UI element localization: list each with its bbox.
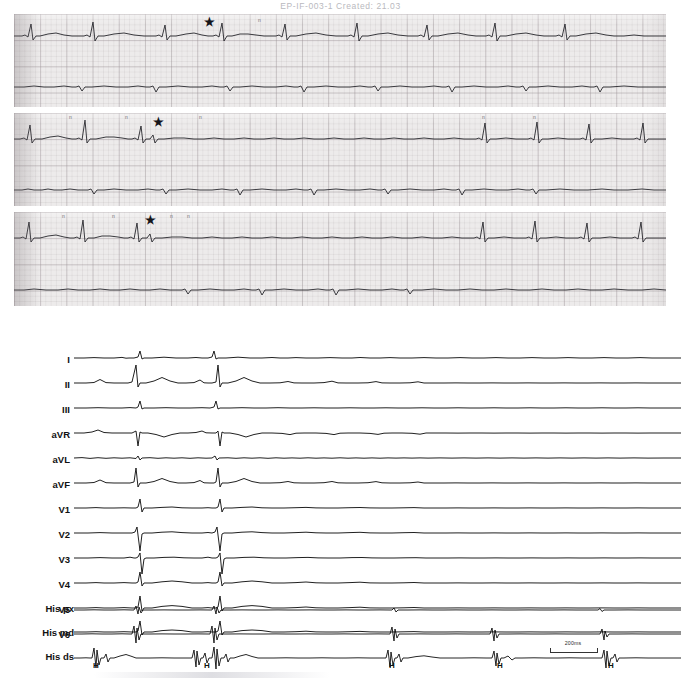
beat-tick-marker: n <box>170 214 173 219</box>
ecg-strip-3: ★ n n n n <box>14 212 666 306</box>
beat-tick-marker: n <box>112 214 115 219</box>
figure-header: EP-IF-003-1 Created: 21.03 <box>0 0 681 12</box>
beat-tick-marker: n <box>258 18 261 23</box>
his-deflection-marker: H <box>608 662 614 670</box>
trace-aVL <box>74 456 681 460</box>
his-deflection-marker: H <box>497 662 503 670</box>
ecg-strip-2: ★ n n n n n <box>14 113 666 206</box>
ecg-strip-2-traces <box>14 113 666 206</box>
ecg-strip-3-traces <box>14 212 666 306</box>
trace-V6 <box>74 621 681 635</box>
his-deflection-marker: H <box>93 662 99 670</box>
trace-V4 <box>74 572 681 586</box>
trace-I <box>74 351 681 359</box>
page-edge-artifact <box>94 672 330 678</box>
ep-label-his-md: His md <box>42 628 74 638</box>
his-deflection-marker: H <box>389 662 395 670</box>
beat-tick-marker: n <box>125 115 128 120</box>
scale-bar-label: 200ms <box>565 640 582 646</box>
beat-tick-marker: n <box>187 214 190 219</box>
ecg-strip-1-traces <box>14 14 666 107</box>
ep-trace-area: H H H H H 200ms <box>74 338 681 678</box>
beat-tick-marker: n <box>69 115 72 120</box>
his-deflection-marker: H <box>204 662 210 670</box>
star-marker: ★ <box>145 214 156 226</box>
ecg-strip-1: ★ n <box>14 14 666 107</box>
trace-aVR <box>74 430 681 446</box>
beat-tick-marker: n <box>533 115 536 120</box>
ep-label-his-ds: His ds <box>45 652 74 662</box>
scale-bar-bracket <box>550 648 598 653</box>
ep-recording-panel: I II III aVR aVL aVF V1 V2 V3 V4 V5 V6 H… <box>0 338 681 678</box>
trace-V5 <box>74 596 681 611</box>
ecg-strips-panel: ★ n ★ n n n n n <box>14 14 666 306</box>
ecg-ep-figure: EP-IF-003-1 Created: 21.03 ★ n <box>0 0 681 690</box>
trace-V1 <box>74 499 681 512</box>
ep-traces-svg <box>74 338 681 678</box>
trace-II <box>74 365 681 387</box>
trace-his-px <box>74 606 681 614</box>
trace-aVF <box>74 468 681 487</box>
star-marker: ★ <box>204 16 215 28</box>
beat-tick-marker: n <box>62 214 65 219</box>
figure-header-text: EP-IF-003-1 Created: 21.03 <box>280 1 401 11</box>
star-marker: ★ <box>153 116 164 128</box>
ep-label-his-px: His px <box>45 604 74 614</box>
trace-V3 <box>74 553 681 574</box>
trace-III <box>74 401 681 409</box>
beat-tick-marker: n <box>199 115 202 120</box>
trace-V2 <box>74 527 681 551</box>
beat-tick-marker: n <box>482 115 485 120</box>
trace-his-md <box>74 626 681 643</box>
